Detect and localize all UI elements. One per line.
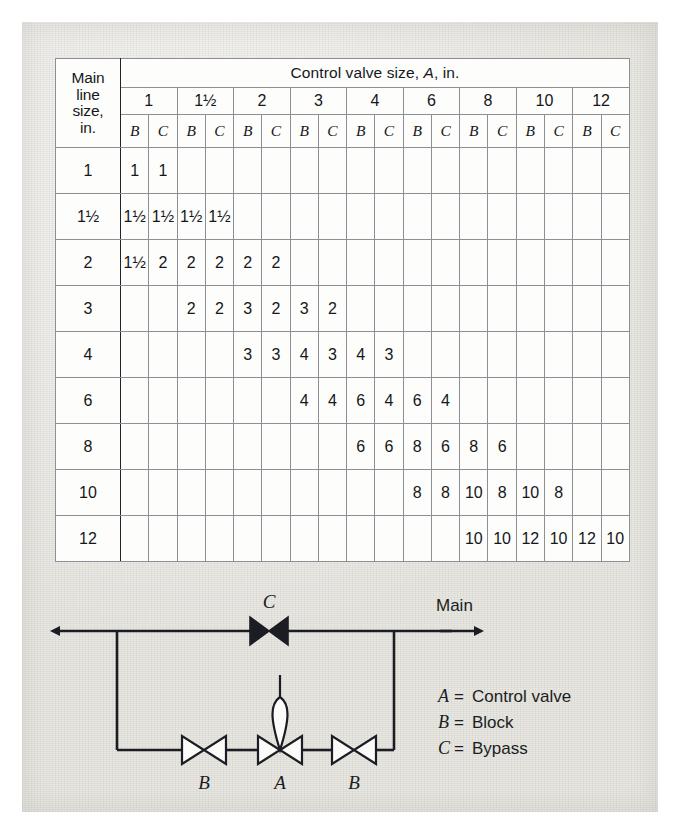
table-cell-r4-c2 (177, 332, 205, 378)
table-cell-r8-c14: 12 (516, 516, 544, 562)
table-cell-r0-c0: 1 (121, 148, 149, 194)
table-cell-r2-c7 (318, 240, 346, 286)
table-cell-r0-c17 (601, 148, 629, 194)
subheader-b-group-2: B (234, 115, 262, 148)
table-cell-r5-c8: 6 (347, 378, 375, 424)
table-cell-r7-c5 (262, 470, 290, 516)
table-cell-r6-c6 (290, 424, 318, 470)
table-cell-r8-c16: 12 (573, 516, 601, 562)
table-cell-r0-c13 (488, 148, 516, 194)
span-header-text-pre: Control valve size, (291, 64, 424, 81)
bypass-valve-right-triangle (269, 617, 288, 645)
table-row: 1088108108 (56, 470, 630, 516)
table-cell-r8-c13: 10 (488, 516, 516, 562)
span-header-symbol-a: A (424, 64, 434, 81)
table-cell-r5-c16 (573, 378, 601, 424)
legend-equals-c: = (454, 739, 464, 758)
subheader-c-group-3: C (318, 115, 346, 148)
table-cell-r3-c0 (121, 286, 149, 332)
scanned-page: Main line size, in. Control valve size, … (22, 22, 658, 812)
table-cell-r1-c8 (347, 194, 375, 240)
table-cell-r7-c11: 8 (431, 470, 459, 516)
table-cell-r3-c15 (544, 286, 572, 332)
table-cell-r1-c10 (403, 194, 431, 240)
table-cell-r7-c3 (205, 470, 233, 516)
table-cell-r1-c7 (318, 194, 346, 240)
table-row: 6446464 (56, 378, 630, 424)
table-cell-r6-c12: 8 (460, 424, 488, 470)
table-cell-r2-c2: 2 (177, 240, 205, 286)
table-cell-r4-c8: 4 (347, 332, 375, 378)
table-cell-r3-c7: 2 (318, 286, 346, 332)
subheader-b-group-7: B (516, 115, 544, 148)
table-cell-r5-c12 (460, 378, 488, 424)
column-group-header-2: 2 (234, 87, 291, 115)
legend-key-b: B (438, 712, 449, 732)
corner-line-3: size, (73, 102, 104, 119)
table-cell-r8-c7 (318, 516, 346, 562)
table-cell-r1-c15 (544, 194, 572, 240)
table-cell-r7-c16 (573, 470, 601, 516)
table-cell-r0-c1: 1 (149, 148, 177, 194)
table-cell-r0-c16 (573, 148, 601, 194)
block-valve-right-symbol (332, 736, 376, 764)
block-valve-left-triangle-2 (204, 736, 226, 764)
table-cell-r3-c12 (460, 286, 488, 332)
table-cell-r6-c13: 6 (488, 424, 516, 470)
table-cell-r2-c15 (544, 240, 572, 286)
table-cell-r3-c6: 3 (290, 286, 318, 332)
table-cell-r2-c0: 1½ (121, 240, 149, 286)
table-cell-r7-c2 (177, 470, 205, 516)
subheader-c-group-8: C (601, 115, 629, 148)
table-cell-r2-c4: 2 (234, 240, 262, 286)
table-row: 12101012101210 (56, 516, 630, 562)
table-cell-r1-c9 (375, 194, 403, 240)
subheader-c-group-1: C (205, 115, 233, 148)
corner-line-1: Main (72, 69, 105, 86)
row-label-main-line-size: 8 (56, 424, 121, 470)
table-cell-r2-c5: 2 (262, 240, 290, 286)
row-label-main-line-size: 6 (56, 378, 121, 424)
table-cell-r3-c16 (573, 286, 601, 332)
table-cell-r3-c4: 3 (234, 286, 262, 332)
table-cell-r8-c3 (205, 516, 233, 562)
table-cell-r7-c8 (347, 470, 375, 516)
table-cell-r5-c9: 4 (375, 378, 403, 424)
row-label-main-line-size: 10 (56, 470, 121, 516)
header-row-span: Main line size, in. Control valve size, … (56, 59, 630, 88)
column-group-header-12: 12 (573, 87, 630, 115)
table-cell-r6-c4 (234, 424, 262, 470)
table-cell-r0-c14 (516, 148, 544, 194)
table-cell-r0-c4 (234, 148, 262, 194)
table-cell-r3-c17 (601, 286, 629, 332)
table-row: 21½22222 (56, 240, 630, 286)
table-cell-r8-c12: 10 (460, 516, 488, 562)
table-cell-r2-c9 (375, 240, 403, 286)
table-cell-r7-c13: 8 (488, 470, 516, 516)
subheader-c-group-6: C (488, 115, 516, 148)
table-cell-r5-c0 (121, 378, 149, 424)
control-valve-actuator-diaphragm (273, 697, 288, 750)
table-cell-r1-c11 (431, 194, 459, 240)
table-cell-r2-c13 (488, 240, 516, 286)
table-cell-r2-c14 (516, 240, 544, 286)
table-cell-r5-c4 (234, 378, 262, 424)
table-cell-r4-c11 (431, 332, 459, 378)
block-valve-right-triangle-2 (354, 736, 376, 764)
table-row: 4334343 (56, 332, 630, 378)
subheader-b-group-6: B (460, 115, 488, 148)
table-cell-r2-c1: 2 (149, 240, 177, 286)
table-cell-r7-c1 (149, 470, 177, 516)
table-cell-r4-c4: 3 (234, 332, 262, 378)
bypass-valve-c-symbol (250, 617, 288, 645)
row-label-main-line-size: 2 (56, 240, 121, 286)
table-cell-r6-c9: 6 (375, 424, 403, 470)
table-row: 111 (56, 148, 630, 194)
table-cell-r1-c12 (460, 194, 488, 240)
subheader-b-group-5: B (403, 115, 431, 148)
table-cell-r6-c3 (205, 424, 233, 470)
table-cell-r6-c7 (318, 424, 346, 470)
table-cell-r2-c12 (460, 240, 488, 286)
corner-line-4: in. (80, 119, 96, 136)
table-cell-r8-c10 (403, 516, 431, 562)
